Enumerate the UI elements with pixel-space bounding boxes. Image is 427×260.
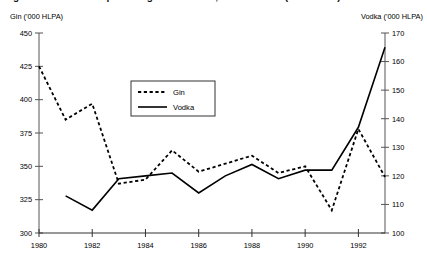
left-axis-tick-label: 425 bbox=[20, 62, 32, 71]
left-axis-tick-label: 350 bbox=[20, 162, 32, 171]
x-axis-tick-label: 1988 bbox=[244, 241, 260, 250]
right-axis: 100110120130140150160170 bbox=[381, 29, 404, 238]
x-axis-tick-label: 1990 bbox=[297, 241, 313, 250]
right-axis-tick-label: 100 bbox=[392, 229, 404, 238]
right-axis-tick-label: 110 bbox=[392, 200, 404, 209]
right-axis-tick-label: 170 bbox=[392, 29, 404, 38]
x-axis-tick-label: 1984 bbox=[137, 241, 153, 250]
right-axis-tick-label: 120 bbox=[392, 172, 404, 181]
legend-label-gin: Gin bbox=[173, 88, 185, 97]
x-axis-tick-label: 1992 bbox=[350, 241, 366, 250]
series-line-vodka bbox=[66, 47, 385, 210]
x-axis: 1980198219841986198819901992 bbox=[31, 229, 385, 250]
x-axis-tick-label: 1986 bbox=[190, 241, 206, 250]
data-series-group bbox=[39, 47, 385, 210]
left-axis-tick-label: 375 bbox=[20, 129, 32, 138]
left-axis-tick-label: 325 bbox=[20, 195, 32, 204]
left-axis: 300325350375400425450 bbox=[20, 29, 43, 238]
chart-figure: Figure 1: UK consumption of gin and vodk… bbox=[0, 0, 427, 260]
left-axis-tick-label: 300 bbox=[20, 229, 32, 238]
right-axis-tick-label: 150 bbox=[392, 86, 404, 95]
right-axis-tick-label: 130 bbox=[392, 143, 404, 152]
left-axis-tick-label: 450 bbox=[20, 29, 32, 38]
left-axis-tick-label: 400 bbox=[20, 95, 32, 104]
x-axis-tick-label: 1982 bbox=[84, 241, 100, 250]
legend-label-vodka: Vodka bbox=[173, 103, 195, 112]
x-axis-tick-label: 1980 bbox=[31, 241, 47, 250]
right-axis-tick-label: 140 bbox=[392, 115, 404, 124]
chart-legend: GinVodka bbox=[131, 81, 215, 116]
chart-plot-area: 300325350375400425450 100110120130140150… bbox=[0, 0, 427, 260]
right-axis-tick-label: 160 bbox=[392, 57, 404, 66]
